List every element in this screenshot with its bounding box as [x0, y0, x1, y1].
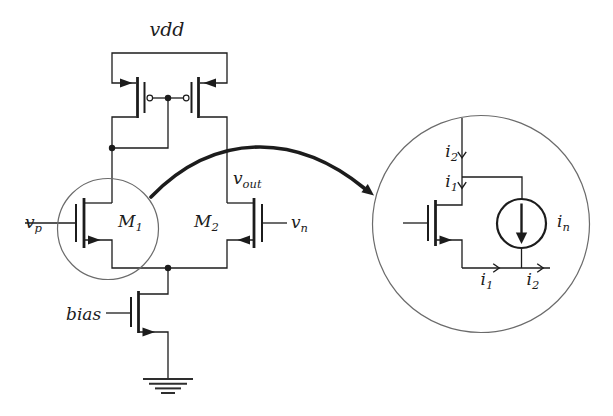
- detail-source-arrow-icon: [440, 236, 453, 245]
- main-schematic: vdd vout: [25, 18, 308, 393]
- bias-source-wire: [139, 332, 169, 379]
- m1-source-wire: [84, 240, 168, 268]
- transistor-m2: [168, 198, 287, 268]
- detail-transistor: [403, 200, 462, 268]
- pmos-left-gate-bubble-icon: [147, 95, 153, 101]
- noise-current-source: [497, 199, 546, 268]
- transistor-m1: [25, 198, 168, 268]
- ground-symbol-icon: [143, 379, 193, 393]
- vdd-rail: [112, 53, 227, 83]
- pmos-left-source-arrow-icon: [120, 79, 133, 88]
- i2-top-label: i2: [445, 141, 458, 164]
- bias-transistor: [106, 268, 168, 379]
- bias-source-arrow-icon: [143, 328, 156, 337]
- pmos-left-drain-wire: [112, 117, 136, 203]
- circuit-figure: vdd vout: [0, 0, 613, 416]
- detail-source-wire: [436, 240, 463, 268]
- m1-label: M1: [117, 211, 143, 234]
- zoom-detail: i2 i1 in i1 i2: [373, 116, 590, 333]
- bias-label: bias: [66, 304, 101, 324]
- m1-highlight-circle: [58, 179, 159, 280]
- i1-top-label: i1: [445, 171, 458, 194]
- vn-label: vn: [291, 212, 308, 235]
- m2-source-wire: [168, 240, 254, 268]
- pmos-mirror-right: [183, 77, 227, 203]
- vp-label: vp: [25, 212, 43, 235]
- circuit-diagram: vdd vout: [0, 0, 613, 416]
- junction-dot: [165, 95, 171, 101]
- m1-source-arrow-icon: [88, 236, 101, 245]
- m2-source-arrow-icon: [238, 236, 251, 245]
- in-label: in: [557, 211, 570, 234]
- pmos-right-gate-bubble-icon: [183, 95, 189, 101]
- vdd-label: vdd: [149, 18, 184, 40]
- m2-label: M2: [193, 211, 219, 234]
- pmos-right-source-arrow-icon: [204, 79, 217, 88]
- vdd-rail-wire: [112, 53, 227, 83]
- bias-drain-wire: [139, 268, 169, 294]
- zoom-arrow-icon: [151, 147, 374, 197]
- gate-drain-tie-wire: [112, 98, 168, 148]
- junction-dot: [109, 145, 115, 151]
- noise-branch-wire: [462, 177, 522, 199]
- mirror-gate-tie: [109, 95, 184, 151]
- i1-bottom-label: i1: [481, 269, 494, 292]
- detail-drain-wire: [436, 118, 463, 205]
- vout-label: vout: [233, 168, 262, 191]
- current-source-arrow-head-icon: [516, 233, 527, 245]
